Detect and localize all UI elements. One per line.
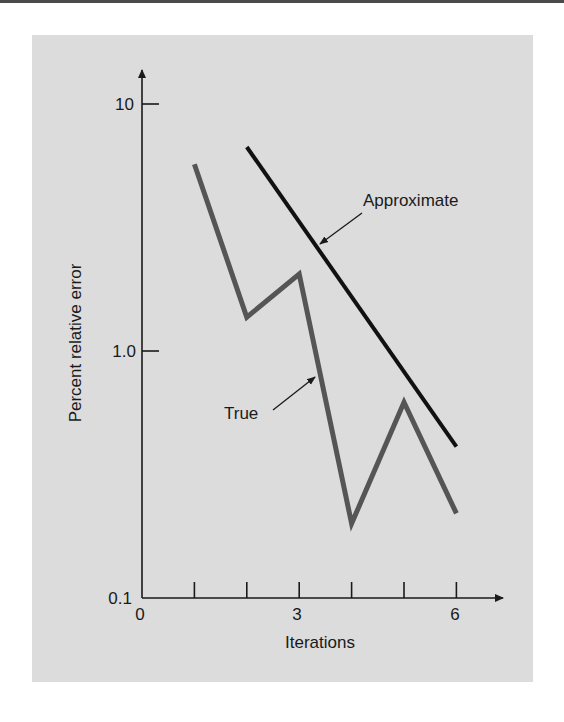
y-axis-title: Percent relative error (66, 263, 85, 422)
series-true-line (194, 164, 456, 523)
annotation-true-arrow (273, 377, 315, 410)
y-ticks (142, 104, 159, 351)
x-axis-title: Iterations (285, 633, 355, 652)
x-ticks (194, 582, 456, 598)
x-tick-label-6: 6 (450, 605, 459, 624)
x-tick-label-0: 0 (135, 605, 144, 624)
x-tick-label-3: 3 (292, 605, 301, 624)
y-tick-label-1: 1.0 (112, 342, 136, 361)
annotation-approximate: Approximate (363, 191, 458, 210)
y-tick-label-10: 10 (115, 95, 134, 114)
annotation-true: True (224, 404, 258, 423)
annotation-approximate-arrow (320, 213, 362, 244)
chart: 10 1.0 0.1 0 3 6 Iterations Percent rela… (0, 0, 564, 722)
y-tick-label-0.1: 0.1 (108, 589, 132, 608)
